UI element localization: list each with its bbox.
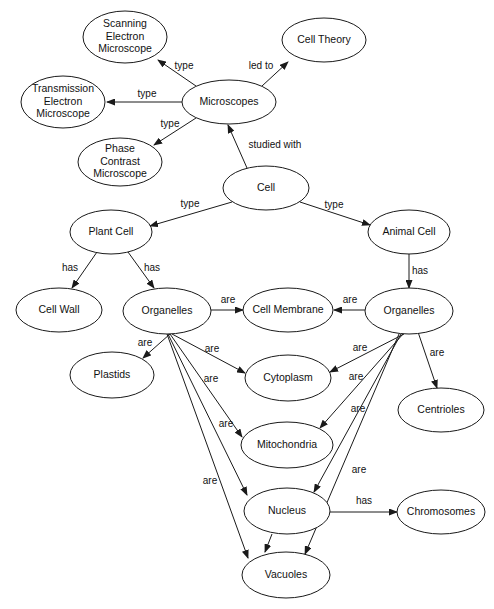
concept-map-canvas: ScanningElectronMicroscopeCell TheoryTra… — [0, 0, 494, 609]
node-label-organelles_a: Organelles — [384, 304, 435, 316]
node-label-phase: Contrast — [100, 155, 140, 167]
node-plastids[interactable]: Plastids — [70, 352, 154, 398]
node-label-scanning: Electron — [106, 30, 145, 42]
node-cytoplasm[interactable]: Cytoplasm — [245, 355, 331, 401]
node-label-chromosomes: Chromosomes — [407, 505, 475, 517]
node-label-transmission: Transmission — [32, 82, 94, 94]
node-mitochondria[interactable]: Mitochondria — [241, 422, 333, 468]
node-transmission[interactable]: TransmissionElectronMicroscope — [21, 76, 105, 128]
node-cellwall[interactable]: Cell Wall — [16, 288, 102, 332]
edge-label-microscopes-phase: type — [161, 118, 180, 129]
node-label-microscopes: Microscopes — [200, 95, 259, 107]
node-label-cell: Cell — [257, 181, 275, 193]
node-label-celltheory: Cell Theory — [297, 33, 351, 45]
node-label-animalcell: Animal Cell — [382, 225, 435, 237]
edge-nucleus-to-vacuoles — [265, 534, 272, 552]
edge-cell-to-microscopes — [228, 125, 247, 168]
edge-label-organelles_p-cellmembrane: are — [221, 294, 236, 305]
node-label-vacuoles: Vacuoles — [265, 568, 307, 580]
edge-label-cell-plantcell: type — [181, 198, 200, 209]
node-label-organelles_p: Organelles — [142, 304, 193, 316]
node-label-transmission: Electron — [44, 95, 83, 107]
edge-label-plantcell-cellwall: has — [62, 262, 78, 273]
node-vacuoles[interactable]: Vacuoles — [242, 552, 330, 598]
node-label-cellwall: Cell Wall — [38, 303, 79, 315]
node-label-phase: Phase — [105, 142, 135, 154]
node-label-scanning: Scanning — [103, 17, 147, 29]
edge-label-microscopes-scanning: type — [175, 60, 194, 71]
node-label-scanning: Microscope — [98, 42, 152, 54]
edge-label-organelles_p-cytoplasm: are — [205, 343, 220, 354]
node-label-cytoplasm: Cytoplasm — [263, 371, 313, 383]
concept-map-graph: ScanningElectronMicroscopeCell TheoryTra… — [0, 0, 494, 609]
node-celltheory[interactable]: Cell Theory — [282, 18, 366, 62]
edge-label-organelles_p-plastids: are — [138, 337, 153, 348]
node-scanning[interactable]: ScanningElectronMicroscope — [83, 11, 167, 63]
edge-label-plantcell-organelles_p: has — [144, 262, 160, 273]
node-label-transmission: Microscope — [36, 107, 90, 119]
node-label-cellmembrane: Cell Membrane — [252, 303, 323, 315]
node-cellmembrane[interactable]: Cell Membrane — [243, 288, 333, 332]
edge-label-cell-microscopes: studied with — [249, 139, 302, 150]
node-animalcell[interactable]: Animal Cell — [368, 210, 450, 254]
edge-label-organelles_a-centrioles: are — [430, 347, 445, 358]
edge-label-animalcell-organelles_a: has — [412, 265, 428, 276]
node-nucleus[interactable]: Nucleus — [244, 488, 330, 534]
edge-label-organelles_a-mitochondria: are — [349, 371, 364, 382]
node-label-mitochondria: Mitochondria — [257, 438, 317, 450]
edge-label-organelles_p-nucleus: are — [219, 418, 234, 429]
nodes-layer: ScanningElectronMicroscopeCell TheoryTra… — [16, 11, 485, 598]
node-plantcell[interactable]: Plant Cell — [70, 210, 152, 254]
edge-label-microscopes-transmission: type — [138, 88, 157, 99]
edge-organelles_a-to-cytoplasm — [330, 334, 404, 372]
edge-label-organelles_a-vacuoles: are — [352, 464, 367, 475]
node-label-plastids: Plastids — [94, 368, 131, 380]
edge-label-organelles_p-mitochondria: are — [204, 373, 219, 384]
edge-label-organelles_a-nucleus: are — [351, 403, 366, 414]
node-organelles_a[interactable]: Organelles — [365, 288, 453, 334]
edge-label-organelles_p-vacuoles: are — [203, 475, 218, 486]
node-microscopes[interactable]: Microscopes — [182, 80, 276, 124]
node-cell[interactable]: Cell — [223, 166, 309, 210]
node-organelles_p[interactable]: Organelles — [123, 288, 211, 334]
node-label-phase: Microscope — [93, 167, 147, 179]
edge-label-organelles_a-cytoplasm: are — [353, 342, 368, 353]
edge-label-microscopes-celltheory: led to — [249, 60, 274, 71]
edge-label-cell-animalcell: type — [325, 199, 344, 210]
edge-organelles_a-to-centrioles — [418, 332, 437, 388]
edge-label-organelles_a-cellmembrane: are — [343, 294, 358, 305]
node-label-nucleus: Nucleus — [268, 504, 306, 516]
edge-organelles_p-to-nucleus — [168, 334, 247, 495]
node-label-plantcell: Plant Cell — [89, 225, 134, 237]
node-chromosomes[interactable]: Chromosomes — [397, 490, 485, 534]
node-label-centrioles: Centrioles — [417, 403, 464, 415]
node-phase[interactable]: PhaseContrastMicroscope — [78, 138, 162, 186]
edge-label-nucleus-chromosomes: has — [356, 495, 372, 506]
node-centrioles[interactable]: Centrioles — [398, 388, 484, 432]
